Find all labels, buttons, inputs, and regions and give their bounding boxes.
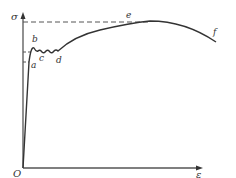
point-label-a: a: [31, 60, 36, 70]
point-label-d: d: [56, 55, 62, 65]
point-label-e: e: [126, 10, 131, 20]
origin-label: O: [13, 168, 21, 178]
y-axis-label: σ: [11, 11, 19, 22]
point-label-f: f: [212, 27, 218, 37]
point-label-c: c: [39, 53, 44, 63]
stress-strain-curve: [23, 21, 216, 168]
axes: [21, 12, 204, 171]
point-label-b: b: [32, 34, 38, 44]
stress-strain-diagram: σ ε O a b c d e f: [0, 0, 236, 178]
x-axis-label: ε: [196, 169, 201, 178]
y-axis-arrow-icon: [21, 12, 26, 19]
